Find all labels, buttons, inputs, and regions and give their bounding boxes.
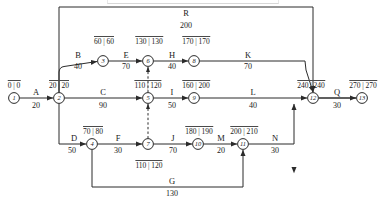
late-time-11: 210 [247,127,258,136]
late-time-12: 240 [314,81,325,90]
late-time-1: 0 [17,81,21,90]
event-time-3: 60|60 [94,36,114,46]
activity-duration-F: 30 [114,147,122,155]
activity-duration-K: 70 [244,63,252,71]
early-time-12: 240 [297,81,308,90]
activity-name-C: C [100,88,106,97]
early-time-11: 200 [230,127,241,136]
activity-duration-Q: 30 [333,102,341,110]
event-time-2: 20|20 [49,80,69,90]
activity-name-A: A [33,88,39,97]
node-label-1: 1 [12,95,15,102]
edge-G [92,150,243,188]
edge-K [200,61,314,92]
activity-duration-C: 90 [99,102,107,110]
early-time-3: 60 [94,37,102,46]
late-time-9: 200 [199,81,210,90]
node-label-10: 10 [195,141,202,148]
early-time-4: 70 [83,127,91,136]
node-label-7: 7 [146,141,149,148]
activity-name-L: L [250,88,255,97]
event-time-5: 110|120 [134,80,161,90]
event-time-11: 200|210 [230,126,258,136]
event-time-13: 270|270 [349,80,377,90]
node-label-13: 13 [359,95,366,102]
activity-duration-E: 70 [122,63,130,71]
activity-name-E: E [123,51,128,60]
event-time-12: 240|240 [297,80,325,90]
node-label-6: 6 [146,58,149,65]
activity-duration-H: 40 [168,63,176,71]
node-label-3: 3 [101,58,104,65]
late-time-13: 270 [366,81,377,90]
event-time-7: 110|120 [135,160,162,170]
activity-name-G: G [169,177,175,186]
early-time-10: 180 [185,127,196,136]
activity-name-D: D [71,134,77,143]
activity-name-I: I [171,88,174,97]
event-time-4: 70|80 [83,126,103,136]
late-time-8: 170 [199,37,210,46]
node-label-9: 9 [192,95,195,102]
node-label-2: 2 [57,95,60,102]
activity-name-R: R [183,9,189,18]
event-time-9: 160|200 [182,80,210,90]
activity-name-M: M [217,134,225,143]
activity-duration-J: 70 [169,147,177,155]
late-time-4: 80 [96,127,104,136]
node-label-5: 5 [146,95,149,102]
late-time-6: 130 [152,37,163,46]
activity-name-F: F [116,134,121,143]
activity-name-N: N [272,134,278,143]
early-time-6: 130 [135,37,146,46]
activity-name-Q: Q [334,88,340,97]
event-time-6: 130|130 [135,36,163,46]
early-time-7: 110 [135,161,146,170]
network-diagram-canvas: 1 2 3 4 5 6 7 8 9 10 11 12 13 A 20 B 40 … [0,0,384,202]
node-label-8: 8 [192,58,195,65]
early-time-8: 170 [182,37,193,46]
activity-name-B: B [75,51,81,60]
activity-duration-B: 40 [74,63,82,71]
late-time-7: 120 [151,161,162,170]
early-time-5: 110 [134,81,145,90]
activity-duration-L: 40 [249,102,257,110]
late-time-5: 120 [150,81,161,90]
event-time-1: 0|0 [8,80,21,90]
activity-name-K: K [245,51,251,60]
late-time-2: 20 [62,81,70,90]
node-label-4: 4 [90,141,93,148]
early-time-9: 160 [182,81,193,90]
activity-duration-I: 50 [168,102,176,110]
activity-name-J: J [171,134,174,143]
late-time-3: 60 [107,37,115,46]
event-time-8: 170|170 [182,36,210,46]
activity-duration-R: 200 [180,22,192,30]
node-label-11: 11 [240,141,246,148]
early-time-13: 270 [349,81,360,90]
early-time-2: 20 [49,81,57,90]
activity-duration-D: 50 [68,147,76,155]
event-time-10: 180|190 [185,126,213,136]
activity-duration-N: 30 [271,147,279,155]
activity-name-H: H [169,51,175,60]
activity-duration-A: 20 [32,102,40,110]
late-time-10: 190 [202,127,213,136]
activity-duration-M: 20 [217,147,225,155]
node-label-12: 12 [310,95,317,102]
activity-duration-G: 130 [166,190,178,198]
